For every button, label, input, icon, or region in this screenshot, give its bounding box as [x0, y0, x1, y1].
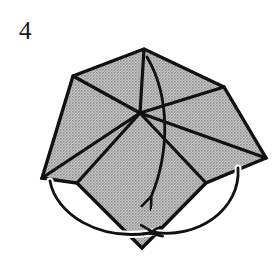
origami-diagram: 4	[0, 0, 279, 265]
origami-figure-svg	[0, 0, 279, 265]
